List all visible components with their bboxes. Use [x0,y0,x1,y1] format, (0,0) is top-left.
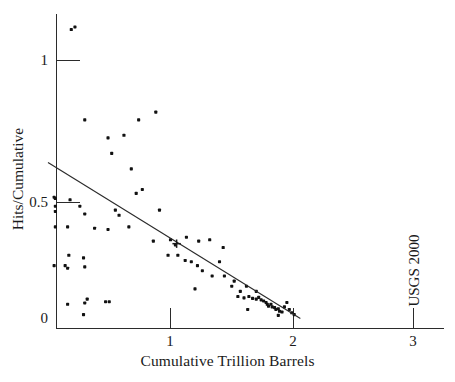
data-point [184,259,187,262]
data-point [83,212,86,215]
data-point [54,205,57,208]
data-point [236,295,239,298]
data-point [83,301,86,304]
data-point [106,136,109,139]
x-tick-label-2: 2 [289,334,297,349]
data-point [257,296,260,299]
data-point [158,209,161,212]
scatter-chart-figure: 1 0.5 0 1 2 3 Cumulative Trillion Barrel… [0,0,455,382]
data-point [285,301,288,304]
data-point [247,295,250,298]
data-point [230,285,233,288]
data-point [54,197,57,200]
data-point [110,152,113,155]
data-point [154,111,157,114]
data-point [104,300,107,303]
data-point [70,28,73,31]
data-point [54,210,57,213]
data-point [222,246,225,249]
data-point [176,254,179,257]
data-point [127,225,130,228]
x-tick-label-3: 3 [409,334,417,349]
data-point [83,265,86,268]
axes-group [57,14,445,329]
data-point [135,192,138,195]
data-point [82,313,85,316]
data-point [190,260,193,263]
data-point [152,240,155,243]
data-point [277,314,280,317]
plot-canvas [0,0,455,382]
data-point [218,260,221,263]
data-point [167,254,170,257]
data-point [130,167,133,170]
data-point [197,240,200,243]
y-axis-title: Hits/Cumulative [9,119,27,239]
data-point [201,269,204,272]
data-point [239,290,242,293]
data-point [185,236,188,239]
x-tick-label-1: 1 [166,334,174,349]
data-point [108,300,111,303]
data-point [86,298,89,301]
x-tick-marks [171,308,414,329]
data-point [208,238,211,241]
data-point [242,296,245,299]
data-point [66,303,69,306]
data-point [211,274,214,277]
data-point [82,256,85,259]
y-tick-label-0: 0 [18,311,48,326]
trend-line-layer [48,162,300,318]
data-point [280,311,283,314]
data-point [93,227,96,230]
data-point [78,205,81,208]
usgs-2000-annotation: USGS 2000 [406,216,423,326]
data-point [83,118,86,121]
data-point [118,214,121,217]
data-point [67,254,70,257]
data-point [53,264,56,267]
data-point [196,264,199,267]
data-point [141,188,144,191]
data-point [251,297,254,300]
data-points-layer [53,25,296,317]
data-point [73,25,76,28]
data-point [54,225,57,228]
data-point [114,209,117,212]
data-point [122,134,125,137]
trend-line [48,162,300,318]
data-point [246,308,249,311]
data-point [69,198,72,201]
data-point [66,267,69,270]
data-point [193,287,196,290]
data-point [223,274,226,277]
data-point [106,228,109,231]
data-point [137,118,140,121]
data-point [233,280,236,283]
y-tick-marks [57,61,81,203]
data-point [64,264,67,267]
x-axis-title: Cumulative Trillion Barrels [0,352,455,370]
y-tick-label-1: 1 [18,53,48,68]
data-point [66,225,69,228]
